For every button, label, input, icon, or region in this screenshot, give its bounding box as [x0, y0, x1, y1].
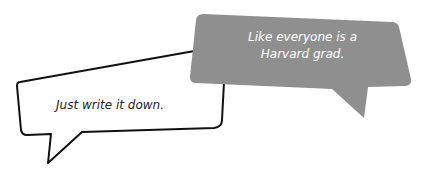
- right-bubble-line-2: Harvard grad.: [215, 46, 390, 63]
- speech-bubbles-illustration: Just write it down. Like everyone is a H…: [0, 0, 427, 178]
- right-bubble-line-1: Like everyone is a: [215, 29, 390, 46]
- right-bubble-text: Like everyone is a Harvard grad.: [215, 29, 390, 63]
- left-bubble-text: Just write it down.: [30, 98, 190, 112]
- bubble-shapes: [0, 0, 427, 178]
